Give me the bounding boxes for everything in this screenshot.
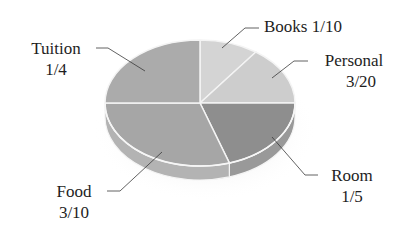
label-room: Room 1/5 [322, 165, 382, 207]
label-room-name: Room [322, 165, 382, 186]
label-food-name: Food [46, 181, 102, 202]
label-books: Books 1/10 [264, 16, 342, 37]
label-personal-value: 3/20 [310, 71, 398, 92]
label-tuition-value: 1/4 [20, 59, 92, 80]
label-tuition: Tuition 1/4 [20, 38, 92, 80]
label-food: Food 3/10 [46, 181, 102, 223]
label-food-value: 3/10 [46, 202, 102, 223]
pie-top [105, 40, 295, 166]
label-tuition-name: Tuition [20, 38, 92, 59]
label-room-value: 1/5 [322, 186, 382, 207]
label-personal: Personal 3/20 [310, 50, 398, 92]
pie-slice-tuition [105, 40, 200, 103]
label-personal-name: Personal [310, 50, 398, 71]
